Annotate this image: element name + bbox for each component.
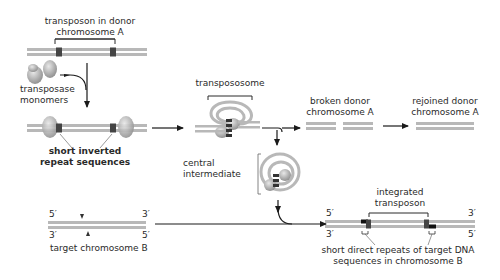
- label-transposon-donor: transposon in donor chromosome A: [30, 16, 150, 38]
- label-line: broken donor: [300, 96, 380, 107]
- label-line: transposon in donor: [30, 16, 150, 27]
- transpososome-structure: [195, 96, 260, 138]
- transposase-monomers-icon: [27, 60, 57, 84]
- label-5prime-bottom-right: 5′: [142, 230, 150, 241]
- label-line: sequences in chromosome B: [318, 256, 478, 267]
- label-line: short direct repeats of target DNA: [318, 245, 478, 256]
- cut-site-top-icon: [80, 214, 84, 219]
- label-line: transposase: [20, 84, 75, 95]
- label-line: short inverted: [35, 146, 135, 157]
- label-line: integrated: [370, 187, 430, 198]
- label-5prime-int-bottom-right: 5′: [468, 229, 476, 240]
- label-line: monomers: [20, 95, 75, 106]
- label-inverted-repeats: short inverted repeat sequences: [35, 146, 135, 168]
- central-intermediate-structure: [261, 154, 299, 191]
- label-3prime-top-right: 3′: [142, 209, 150, 220]
- donor-with-transposase: [27, 116, 147, 148]
- label-line: intermediate: [183, 169, 241, 180]
- label-transpososome: transpososome: [195, 78, 265, 89]
- label-transposase-monomers: transposase monomers: [20, 84, 75, 106]
- integrated-chromosome-b: [325, 213, 475, 245]
- label-line: repeat sequences: [35, 157, 135, 168]
- label-direct-repeats: short direct repeats of target DNA seque…: [318, 245, 478, 267]
- target-chromosome-b: [48, 214, 146, 236]
- label-3prime-int-bottom-left: 3′: [326, 229, 334, 240]
- label-rejoined-donor: rejoined donor chromosome A: [405, 96, 485, 118]
- donor-chromosome-a: [27, 39, 147, 57]
- label-line: central: [183, 158, 241, 169]
- diagram-canvas: [0, 0, 500, 280]
- label-5prime-int-top-left: 5′: [326, 208, 334, 219]
- label-central-intermediate: central intermediate: [183, 158, 241, 180]
- label-integrated-transposon: integrated transposon: [370, 187, 430, 209]
- label-broken-donor: broken donor chromosome A: [300, 96, 380, 118]
- rejoined-donor-chromosome: [416, 122, 474, 130]
- cut-site-bottom-icon: [86, 231, 90, 236]
- label-line: rejoined donor: [405, 96, 485, 107]
- label-line: chromosome A: [405, 107, 485, 118]
- label-target-chromosome: target chromosome B: [50, 243, 148, 254]
- integrated-transposon-bracket: [369, 213, 428, 217]
- broken-donor-chromosome: [306, 122, 373, 130]
- label-line: transposon: [370, 198, 430, 209]
- label-3prime-bottom-left: 3′: [49, 230, 57, 241]
- label-line: chromosome A: [30, 27, 150, 38]
- label-5prime-top-left: 5′: [49, 209, 57, 220]
- label-3prime-int-top-right: 3′: [468, 208, 476, 219]
- label-line: chromosome A: [300, 107, 380, 118]
